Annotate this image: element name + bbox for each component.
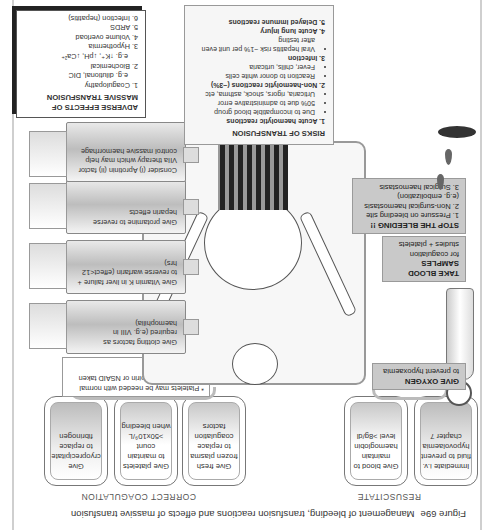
section-correct-coagulation: CORRECT COAGULATION [81,492,196,502]
risk-bullet: Reaction to donor white cells [193,72,315,81]
risk-bullet: Urticaria, rigors, shock, asthma, etc [193,90,315,99]
adverse-subitem: e.g. dilutional, DIC [24,71,138,81]
syringe-vitamin-k: Give Vitamin K in liver failure + to rev… [66,240,186,294]
adverse-title: ADVERSE EFFECTS OF MASSIVE TRANSFUSION [24,93,138,112]
adverse-subitem: e.g. ↑K⁺, ↓pH, ↓Ca²⁺ [24,51,138,61]
stop-bleeding-title: STOP THE BLEEDING !! [370,221,459,230]
section-resuscitate: RESUSCITATE [357,492,421,502]
stop-bleeding-item-3: 3. Surgical haemostasis [379,183,459,192]
patient-head [232,343,278,385]
figure-caption: Figure 69eManagement of bleeding, transf… [71,509,466,520]
adverse-item: 3. Hypothermia [24,42,138,52]
risk-bullet: Due to incompatible blood group [193,108,315,117]
stop-bleeding-item-2: 2. Non-surgical haemostasis (e.g. emboli… [364,193,459,212]
syringe-protamine: Give protamine to reverse heparin effect… [66,180,186,234]
label-take-blood-samples: TAKE BLOOD SAMPLES for coagulation studi… [382,236,466,282]
figure-number: Figure 69e [421,509,466,520]
adverse-item: 5. ARDS [24,23,138,33]
box-cryo-text: Give cryoprecipitate to replace fibrinog… [50,402,102,480]
page-border-right [12,0,14,530]
stop-bleeding-item-1: 1. Pressure on bleeding site [366,212,459,221]
blood-drop-icon [445,149,452,165]
adverse-item: 6. Infection (hepatitis) [24,13,138,23]
risk-bullet: Fever, chills, urticaria [193,63,315,72]
box-iv-fluid-text: Immediate i.v. fluid to prevent hypovola… [420,402,472,480]
box-iv-fluid: Immediate i.v. fluid to prevent hypovola… [414,396,478,486]
risk-heading: 2. Non-haemolytic reactions (~3%) [193,81,325,90]
adverse-item: 1. Coagulopathy [24,80,138,90]
adverse-item: 4. Volume overload [24,32,138,42]
risks-of-transfusion-panel: RISKS OF TRANSFUSION 1. Acute haemolytic… [184,5,334,145]
blood-samples-title: TAKE BLOOD SAMPLES [408,260,459,279]
risk-heading: 4. Acute lung injury [193,27,325,36]
figure-canvas: Figure 69eManagement of bleeding, transf… [0,0,496,530]
box-give-blood: Give blood to maintain haemoglobin level… [344,396,408,486]
box-platelets: Give platelets to maintain count >50x10⁹… [114,396,178,486]
oxygen-body: to prevent hypoxaemia [383,368,459,377]
box-cryoprecipitate: Give cryoprecipitate to replace fibrinog… [44,396,108,486]
label-stop-bleeding: STOP THE BLEEDING !! 1. Pressure on blee… [352,179,466,235]
syringe-clotting-factors: Give clotting factors as required (e.g. … [66,300,186,354]
figure-title: Management of bleeding, transfusion reac… [71,509,415,520]
patient-body [204,196,302,290]
syringe-aprotinin: Consider (i) Aprotinin (ii) factor VIIa … [66,122,186,182]
risk-heading: 3. Infection [193,54,325,63]
risk-heading: 1. Acute haemolytic reactions [193,117,325,126]
blood-pool-icon [438,126,476,138]
risk-bullet: 50% due to administrative error [193,99,315,108]
adverse-effects-panel: ADVERSE EFFECTS OF MASSIVE TRANSFUSION 1… [16,10,146,118]
risk-bullet: Viral hepatitis risk ~1% per unit even a… [193,36,315,54]
oxygen-title: GIVE OXYGEN [405,377,459,386]
label-give-oxygen: GIVE OXYGEN to prevent hypoxaemia [372,363,466,390]
box-ffp: Give fresh frozen plasma to replace coag… [182,396,246,486]
box-give-blood-text: Give blood to maintain haemoglobin level… [350,402,402,480]
blood-samples-body: for coagulation studies + platelets [399,241,459,260]
adverse-item: 2. Biochemical [24,61,138,71]
box-ffp-text: Give fresh frozen plasma to replace coag… [188,402,240,480]
page-border-left [480,0,482,530]
box-platelets-text: Give platelets to maintain count >50x10⁹… [120,402,172,480]
risk-heading: 5. Delayed immune reactions [193,18,325,27]
risks-title: RISKS OF TRANSFUSION [193,129,325,138]
